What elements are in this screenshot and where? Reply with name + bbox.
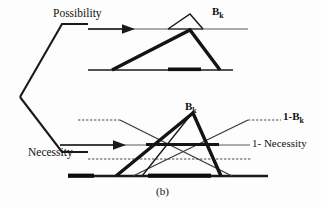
label-necessity: Necessity [28, 147, 73, 159]
label-bk-bottom: Bk [185, 101, 197, 115]
diagram-canvas [0, 0, 321, 208]
label-one-minus-bk-subscript: k [300, 116, 304, 125]
label-bk-bottom-subscript: k [192, 106, 196, 115]
possibility-thin-triangle [168, 14, 203, 29]
possibility-arrow-icon [88, 24, 135, 34]
necessity-base-interval-left [68, 174, 94, 178]
label-possibility: Possibility [53, 8, 102, 20]
branch-connector [20, 24, 88, 152]
figure-caption: (b) [156, 186, 169, 197]
label-bk-top-subscript: k [219, 11, 223, 20]
figure-container: Possibility Necessity Bk Bk 1-Bk 1- Nece… [0, 0, 321, 208]
necessity-base-interval-mid [148, 174, 211, 178]
label-one-minus-bk: 1-Bk [283, 111, 304, 125]
label-one-minus-bk-base: 1-B [283, 110, 300, 122]
necessity-panel [60, 112, 281, 178]
label-bk-top: Bk [212, 6, 224, 20]
label-one-minus-necessity: 1- Necessity [252, 138, 307, 149]
branch-upper-line [20, 24, 88, 97]
possibility-panel [88, 14, 248, 71]
possibility-thick-triangle [112, 30, 220, 70]
possibility-base-interval [168, 68, 201, 72]
branch-lower-line [20, 97, 88, 152]
